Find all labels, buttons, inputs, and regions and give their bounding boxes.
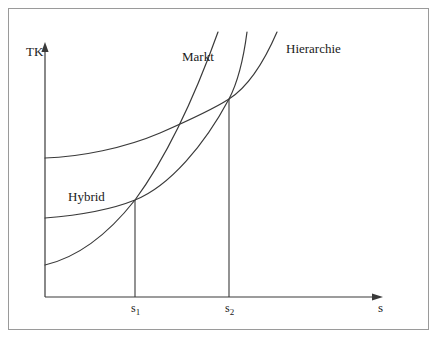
figure-container: TK s Markt Hierarchie Hybrid s1 s2 — [0, 0, 441, 343]
x-tick-label-s1: s1 — [131, 302, 140, 317]
x-tick-s2-sub: 2 — [230, 307, 235, 317]
x-tick-s1-sub: 1 — [136, 307, 141, 317]
diagram-canvas — [0, 0, 441, 343]
x-tick-label-s2: s2 — [225, 302, 234, 317]
y-axis — [41, 42, 48, 297]
x-axis-label: s — [378, 301, 383, 314]
curve-label-hierarchie: Hierarchie — [286, 42, 341, 55]
x-axis — [45, 293, 383, 300]
curve-label-markt: Markt — [182, 50, 214, 63]
y-axis-label: TK — [26, 45, 43, 58]
curve-label-hybrid: Hybrid — [68, 190, 105, 203]
curve-hierarchie — [45, 32, 277, 158]
curve-markt — [45, 32, 218, 265]
